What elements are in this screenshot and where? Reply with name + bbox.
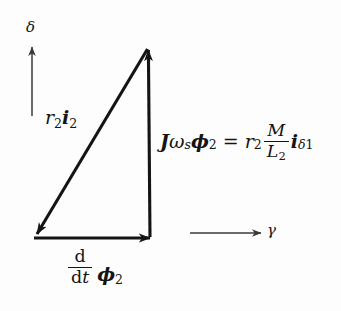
gamma-axis-label: γ — [267, 223, 276, 238]
equation-J-symbol: J — [160, 132, 169, 151]
vector-diagram-figure: δ γ r2i2 Jωsϕ2 = r2 M L2 iδ1 d dt ϕ2 — [0, 0, 341, 311]
ddt-phi-term: ϕ2 — [97, 265, 123, 284]
J-omega-s-phi2-equation-label: Jωsϕ2 = r2 M L2 iδ1 — [160, 122, 314, 161]
equation-M-over-L2-fraction: M L2 — [264, 122, 289, 161]
ddt-fraction: d dt — [68, 248, 92, 287]
equation-omega-symbol: ω — [169, 132, 185, 151]
ddt-denominator-t: t — [82, 267, 89, 287]
ddt-denominator-d: d — [71, 267, 82, 287]
fraction-numerator-M: M — [264, 122, 288, 141]
equation-rhs-i-subscript-delta: δ — [298, 139, 306, 152]
equation-rhs-i-subscript-one: 1 — [306, 139, 314, 152]
ddt-numerator-d: d — [72, 248, 89, 267]
equation-rhs-r-symbol: r — [245, 132, 254, 151]
equation-phi-subscript: 2 — [209, 139, 217, 152]
r2-i2-vector-arrow — [37, 49, 148, 234]
ddt-phi-symbol: ϕ — [97, 263, 115, 285]
r2-i2-vector-label: r2i2 — [45, 108, 77, 127]
fraction-denominator-L: L — [267, 141, 279, 161]
ddt-phi-subscript: 2 — [115, 272, 123, 287]
equation-rhs-i-symbol: i — [291, 132, 298, 151]
r2i2-i-subscript: 2 — [69, 116, 77, 131]
delta-axis-label: δ — [26, 20, 35, 35]
r2i2-r-symbol: r — [45, 106, 54, 128]
equation-omega-subscript: s — [185, 139, 191, 152]
fraction-denominator-L2: L2 — [264, 141, 289, 161]
equation-equals-sign: = — [223, 132, 239, 151]
equation-rhs-r-subscript: 2 — [254, 139, 262, 152]
r2i2-r-subscript: 2 — [54, 116, 62, 131]
ddt-denominator: dt — [68, 267, 92, 287]
ddt-phi2-vector-label: d dt ϕ2 — [66, 248, 123, 287]
equation-phi-symbol: ϕ — [191, 132, 209, 151]
J-omega-s-phi2-vector-arrow — [148, 50, 150, 237]
fraction-denominator-subscript: 2 — [278, 149, 285, 163]
